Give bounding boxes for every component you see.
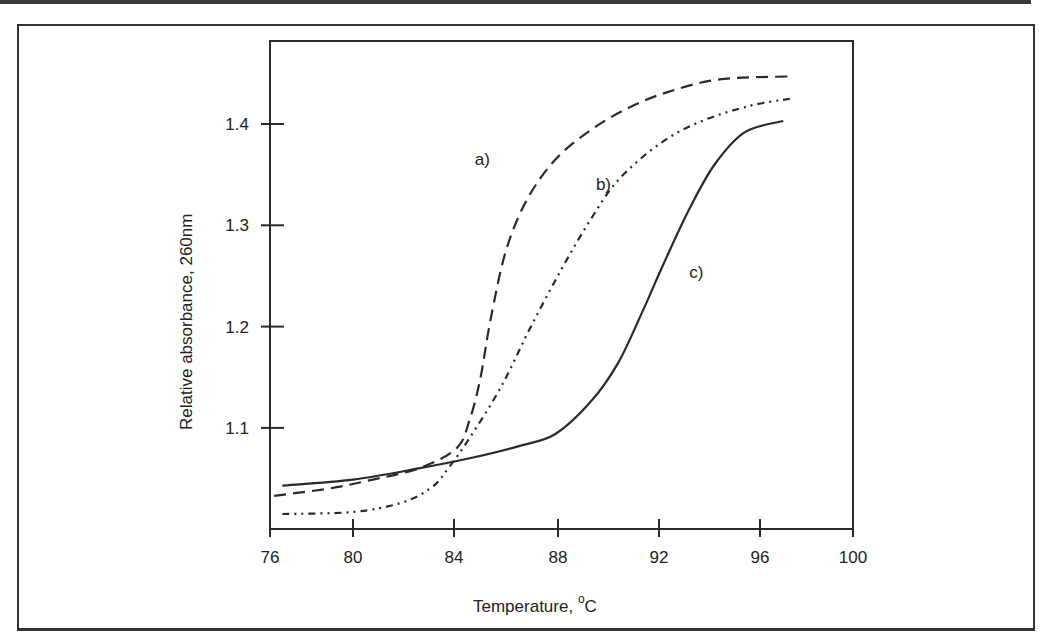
x-tick-label: 88 [549,548,568,567]
y-tick-label: 1.4 [225,115,249,134]
plot-area [270,41,853,529]
y-axis-label: Relative absorbance, 260nm [177,214,196,430]
x-axis-ticks: 768084889296100 [261,519,868,567]
y-tick-label: 1.2 [225,318,249,337]
y-tick-label: 1.3 [225,216,249,235]
curve-b [282,99,790,514]
curve-c [282,121,783,486]
x-tick-label: 80 [344,548,363,567]
chart: 768084889296100 1.11.21.31.4 a)b)c) Temp… [0,0,1051,641]
curve-a [274,76,790,495]
x-tick-label: 76 [261,548,280,567]
y-tick-label: 1.1 [225,419,249,438]
x-tick-label: 84 [445,548,464,567]
x-axis-label: Temperature, oC [473,592,597,616]
x-tick-label: 92 [650,548,669,567]
curve-label: c) [689,263,703,282]
x-tick-label: 96 [751,548,770,567]
curve-labels: a)b)c) [475,150,704,282]
y-axis-ticks: 1.11.21.31.4 [225,115,284,438]
curve-label: b) [596,175,611,194]
x-tick-label: 100 [839,548,867,567]
curves [274,76,790,514]
curve-label: a) [475,150,490,169]
